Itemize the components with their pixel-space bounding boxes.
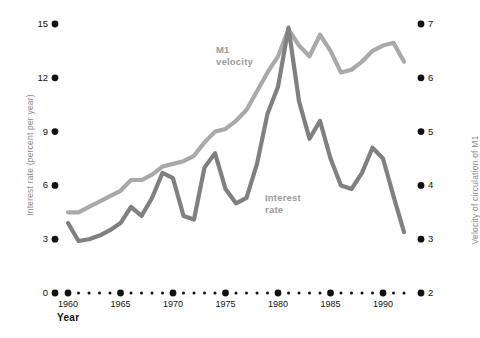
x-axis-minor-tick-dot <box>235 292 238 295</box>
x-axis-minor-tick-dot <box>109 292 112 295</box>
y-axis-right-tick-label: 6 <box>428 72 456 83</box>
y-axis-right-tick-label: 7 <box>428 18 456 29</box>
x-axis-minor-tick-dot <box>214 292 217 295</box>
x-axis-major-tick-dot <box>65 290 72 297</box>
y-axis-right-tick-dot <box>418 236 425 243</box>
x-axis-minor-tick-dot <box>193 292 196 295</box>
x-axis-major-tick-dot <box>327 290 334 297</box>
y-axis-right-tick-label: 5 <box>428 126 456 137</box>
x-axis-minor-tick-dot <box>350 292 353 295</box>
x-axis-minor-tick-dot <box>140 292 143 295</box>
x-axis-minor-tick-dot <box>245 292 248 295</box>
y-axis-right-tick-dot <box>418 74 425 81</box>
x-axis-major-tick-dot <box>222 290 229 297</box>
y-axis-left-tick-dot <box>52 128 59 135</box>
y-axis-left-tick-label: 9 <box>12 126 48 137</box>
x-axis-title: Year <box>57 312 79 323</box>
y-axis-left-title: Interest rate (percent per year) <box>25 70 35 240</box>
x-axis-tick-label: 1965 <box>101 299 141 309</box>
x-axis-minor-tick-dot <box>266 292 269 295</box>
x-axis-major-tick-dot <box>117 290 124 297</box>
x-axis-tick-label: 1990 <box>363 299 403 309</box>
x-axis-minor-tick-dot <box>151 292 154 295</box>
y-axis-left-tick-dot <box>52 290 59 297</box>
x-axis-tick-label: 1980 <box>258 299 298 309</box>
x-axis-minor-tick-dot <box>182 292 185 295</box>
y-axis-left-tick-label: 15 <box>12 18 48 29</box>
series-label-m1-velocity: M1 velocity <box>216 44 253 67</box>
x-axis-minor-tick-dot <box>361 292 364 295</box>
y-axis-left-tick-dot <box>52 21 59 28</box>
x-axis-major-tick-dot <box>380 290 387 297</box>
x-axis-minor-tick-dot <box>287 292 290 295</box>
x-axis-minor-tick-dot <box>308 292 311 295</box>
x-axis-minor-tick-dot <box>161 292 164 295</box>
y-axis-right-tick-label: 4 <box>428 179 456 190</box>
y-axis-right-tick-dot <box>418 182 425 189</box>
y-axis-left-tick-label: 6 <box>12 179 48 190</box>
x-axis-minor-tick-dot <box>98 292 101 295</box>
x-axis-minor-tick-dot <box>371 292 374 295</box>
x-axis-minor-tick-dot <box>392 292 395 295</box>
y-axis-left-tick-label: 12 <box>12 72 48 83</box>
x-axis-minor-tick-dot <box>403 292 406 295</box>
y-axis-left-tick-dot <box>52 182 59 189</box>
y-axis-left-tick-dot <box>52 236 59 243</box>
x-axis-minor-tick-dot <box>130 292 133 295</box>
y-axis-left-tick-label: 3 <box>12 233 48 244</box>
x-axis-major-tick-dot <box>275 290 282 297</box>
y-axis-right-tick-dot <box>418 21 425 28</box>
x-axis-tick-label: 1985 <box>311 299 351 309</box>
x-axis-minor-tick-dot <box>88 292 91 295</box>
y-axis-right-tick-label: 3 <box>428 233 456 244</box>
y-axis-right-tick-label: 2 <box>428 287 456 298</box>
y-axis-left-tick-label: 0 <box>12 287 48 298</box>
x-axis-minor-tick-dot <box>256 292 259 295</box>
x-axis-minor-tick-dot <box>298 292 301 295</box>
series-label-interest-rate: Interest rate <box>265 192 301 215</box>
x-axis-minor-tick-dot <box>77 292 80 295</box>
y-axis-right-title: Velocity of circulation of M1 <box>470 105 480 275</box>
x-axis-minor-tick-dot <box>340 292 343 295</box>
x-axis-tick-label: 1960 <box>48 299 88 309</box>
y-axis-right-tick-dot <box>418 128 425 135</box>
x-axis-tick-label: 1975 <box>206 299 246 309</box>
x-axis-major-tick-dot <box>170 290 177 297</box>
y-axis-right-tick-dot <box>418 290 425 297</box>
x-axis-minor-tick-dot <box>203 292 206 295</box>
x-axis-minor-tick-dot <box>319 292 322 295</box>
x-axis-tick-label: 1970 <box>153 299 193 309</box>
y-axis-left-tick-dot <box>52 74 59 81</box>
